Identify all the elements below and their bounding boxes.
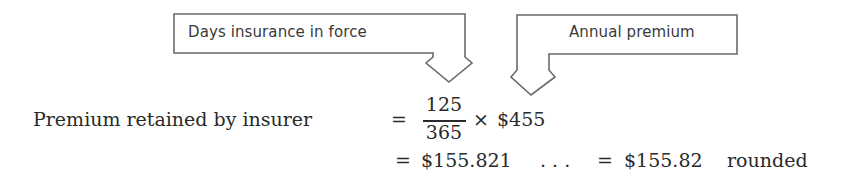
callout-label-annual-premium: Annual premium — [569, 23, 695, 41]
fraction-denominator: 365 — [422, 121, 466, 143]
equation-lhs: Premium retained by insurer — [33, 108, 312, 130]
rounded-note: rounded — [727, 149, 808, 171]
ellipsis: . . . — [540, 149, 570, 171]
callout-label-days-in-force: Days insurance in force — [188, 23, 367, 41]
fraction-numerator: 125 — [422, 93, 466, 115]
line2-equals-sign: = — [395, 149, 411, 171]
times-sign: × — [473, 108, 489, 130]
equals-sign: = — [391, 108, 407, 130]
exact-value: $155.821 — [421, 149, 512, 171]
line2-equals-sign-2: = — [597, 149, 613, 171]
rounded-value: $155.82 — [624, 149, 703, 171]
annual-premium-value: $455 — [497, 108, 545, 130]
